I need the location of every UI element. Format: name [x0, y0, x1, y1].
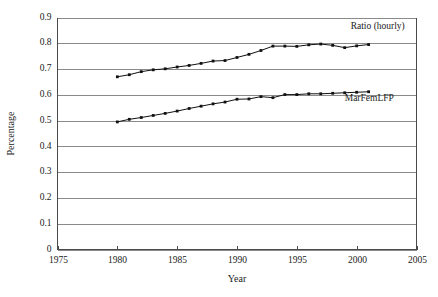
series-marker [152, 68, 155, 71]
series-1 [116, 43, 370, 79]
series-marker [128, 118, 131, 121]
series-marker [367, 43, 370, 46]
series-marker [176, 66, 179, 69]
series-marker [260, 49, 263, 52]
series-marker [331, 44, 334, 47]
series-marker [319, 92, 322, 95]
x-tick-label-1985: 1985 [168, 255, 187, 265]
y-tick-label-0.4: 0.4 [40, 141, 52, 151]
series-marker [200, 62, 203, 65]
series-annotations: Ratio (hourly)MarFemLFP [345, 21, 405, 103]
x-tick-label-1980: 1980 [108, 255, 127, 265]
x-tick-label-1990: 1990 [228, 255, 247, 265]
chart-figure: 00.10.20.30.40.50.60.70.80.9197519801985… [0, 0, 438, 297]
series-marker [295, 93, 298, 96]
series-marker [224, 101, 227, 104]
series-marker [343, 46, 346, 49]
y-tick-label-0.1: 0.1 [40, 218, 52, 228]
y-axis-title: Percentage [5, 111, 16, 155]
x-tick-label-2000: 2000 [348, 255, 367, 265]
series-label-2: MarFemLFP [345, 93, 394, 103]
series-marker [176, 110, 179, 113]
y-tick-label-0.3: 0.3 [40, 166, 52, 176]
series-marker [248, 98, 251, 101]
y-tick-label-0.2: 0.2 [40, 192, 52, 202]
x-tick-label-2005: 2005 [408, 255, 427, 265]
series-marker [248, 53, 251, 56]
y-tick-label-0.8: 0.8 [40, 37, 52, 47]
series-marker [236, 98, 239, 101]
series-marker [224, 59, 227, 62]
series-marker [355, 44, 358, 47]
series-label-1: Ratio (hourly) [351, 21, 405, 32]
series-marker [212, 60, 215, 63]
series-marker [116, 121, 119, 124]
series-marker [140, 70, 143, 73]
axes [58, 18, 417, 250]
series-marker [331, 92, 334, 95]
series-marker [283, 45, 286, 48]
series-marker [188, 64, 191, 67]
series-marker [212, 102, 215, 105]
series-marker [116, 75, 119, 78]
series-line-1 [117, 44, 368, 77]
series-marker [272, 96, 275, 99]
line-chart: 00.10.20.30.40.50.60.70.80.9197519801985… [0, 0, 438, 297]
series-marker [295, 45, 298, 48]
series-marker [200, 105, 203, 108]
series-marker [164, 67, 167, 70]
y-tick-label-0.5: 0.5 [40, 115, 52, 125]
series-marker [188, 107, 191, 110]
x-tick-label-1975: 1975 [49, 255, 68, 265]
series-marker [128, 73, 131, 76]
series-marker [236, 56, 239, 59]
y-tick-label-0: 0 [47, 244, 52, 254]
series-marker [260, 95, 263, 98]
x-axis-ticks: 1975198019851990199520002005 [49, 246, 427, 265]
y-axis-ticks: 00.10.20.30.40.50.60.70.80.9 [40, 12, 52, 254]
series-line-2 [117, 92, 368, 122]
series-marker [319, 43, 322, 46]
x-tick-label-1995: 1995 [288, 255, 307, 265]
series-marker [307, 92, 310, 95]
series-marker [272, 45, 275, 48]
series-marker [164, 112, 167, 115]
gridlines [58, 19, 417, 251]
series-marker [152, 114, 155, 117]
x-axis-title: Year [228, 273, 247, 284]
series-marker [140, 116, 143, 119]
series-marker [283, 93, 286, 96]
y-tick-label-0.6: 0.6 [40, 89, 52, 99]
y-tick-label-0.9: 0.9 [40, 12, 52, 22]
series-marker [307, 43, 310, 46]
y-tick-label-0.7: 0.7 [40, 63, 52, 73]
